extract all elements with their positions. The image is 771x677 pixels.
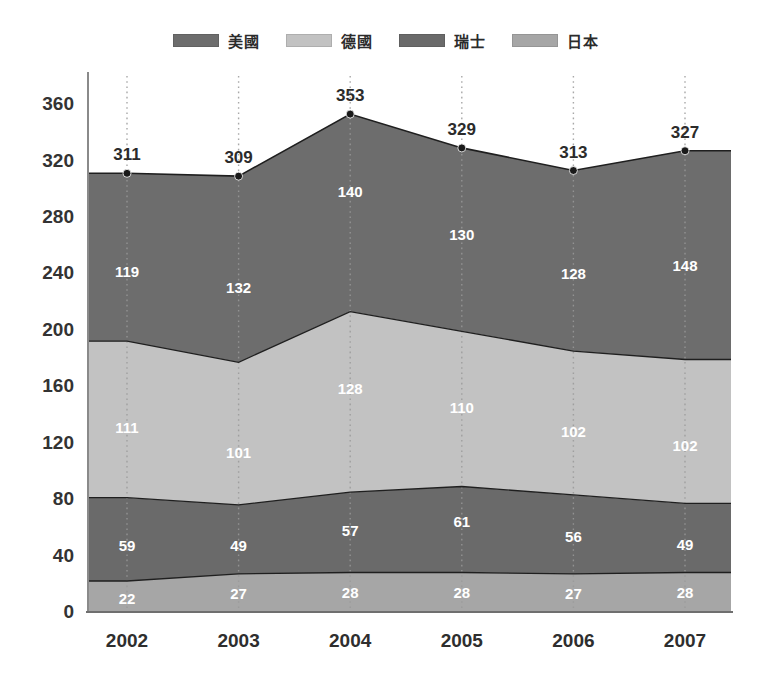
segment-label-switzerland-2006: 56 bbox=[543, 528, 603, 545]
total-label-2003: 309 bbox=[209, 148, 269, 168]
x-axis-tick-2007: 2007 bbox=[640, 630, 730, 652]
y-axis-tick-360: 360 bbox=[22, 93, 74, 115]
stacked-area-chart: 美國 德國 瑞士 日本 04080120160200240280320360 2… bbox=[0, 0, 771, 677]
segment-label-usa-2002: 119 bbox=[97, 263, 157, 280]
y-axis-tick-200: 200 bbox=[22, 319, 74, 341]
segment-label-japan-2004: 28 bbox=[320, 584, 380, 601]
y-axis-tick-0: 0 bbox=[22, 601, 74, 623]
segment-label-germany-2007: 102 bbox=[655, 437, 715, 454]
segment-label-japan-2002: 22 bbox=[97, 590, 157, 607]
y-axis-tick-320: 320 bbox=[22, 150, 74, 172]
segment-label-germany-2006: 102 bbox=[543, 422, 603, 439]
plot-svg bbox=[0, 0, 771, 677]
segment-label-switzerland-2002: 59 bbox=[97, 537, 157, 554]
segment-label-usa-2005: 130 bbox=[432, 225, 492, 242]
total-label-2005: 329 bbox=[432, 120, 492, 140]
y-axis-tick-240: 240 bbox=[22, 262, 74, 284]
y-axis-tick-280: 280 bbox=[22, 206, 74, 228]
total-label-2004: 353 bbox=[320, 86, 380, 106]
segment-label-usa-2006: 128 bbox=[543, 264, 603, 281]
y-axis-tick-120: 120 bbox=[22, 432, 74, 454]
segment-label-japan-2003: 27 bbox=[209, 584, 269, 601]
plot-area: 04080120160200240280320360 2002200320042… bbox=[0, 0, 771, 677]
segment-label-usa-2007: 148 bbox=[655, 257, 715, 274]
y-axis-tick-80: 80 bbox=[22, 488, 74, 510]
x-axis-tick-2002: 2002 bbox=[82, 630, 172, 652]
segment-label-usa-2004: 140 bbox=[320, 182, 380, 199]
x-axis-tick-2003: 2003 bbox=[194, 630, 284, 652]
segment-label-germany-2002: 111 bbox=[97, 419, 157, 436]
y-axis-tick-160: 160 bbox=[22, 375, 74, 397]
segment-label-germany-2003: 101 bbox=[209, 443, 269, 460]
total-label-2007: 327 bbox=[655, 123, 715, 143]
segment-label-japan-2005: 28 bbox=[432, 584, 492, 601]
segment-label-usa-2003: 132 bbox=[209, 279, 269, 296]
segment-label-switzerland-2004: 57 bbox=[320, 522, 380, 539]
segment-label-germany-2004: 128 bbox=[320, 379, 380, 396]
segment-label-japan-2006: 27 bbox=[543, 584, 603, 601]
segment-label-switzerland-2007: 49 bbox=[655, 535, 715, 552]
total-label-2006: 313 bbox=[543, 143, 603, 163]
x-axis-tick-2004: 2004 bbox=[305, 630, 395, 652]
y-axis-tick-40: 40 bbox=[22, 545, 74, 567]
total-label-2002: 311 bbox=[97, 145, 157, 165]
segment-label-switzerland-2003: 49 bbox=[209, 537, 269, 554]
x-axis-tick-2006: 2006 bbox=[528, 630, 618, 652]
segment-label-germany-2005: 110 bbox=[432, 398, 492, 415]
segment-label-switzerland-2005: 61 bbox=[432, 513, 492, 530]
x-axis-tick-2005: 2005 bbox=[417, 630, 507, 652]
segment-label-japan-2007: 28 bbox=[655, 584, 715, 601]
